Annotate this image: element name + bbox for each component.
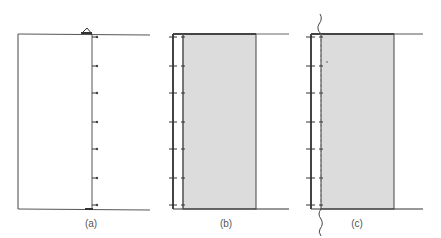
panel-a	[18, 28, 150, 210]
panel-c-label: (c)	[351, 218, 363, 229]
panel-a-region	[18, 34, 92, 209]
panel-c-shaded-region	[321, 34, 394, 209]
panel-a-bottom-thick	[85, 208, 93, 210]
panel-c-ticks	[306, 37, 323, 205]
panel-a-label: (a)	[85, 218, 97, 229]
panel-c	[306, 14, 423, 236]
panel-a-bottom-edge	[18, 209, 150, 210]
panel-b-label: (b)	[220, 218, 232, 229]
panel-b-shaded-region	[183, 34, 256, 209]
panel-b	[169, 34, 289, 209]
panel-a-ticks	[92, 36, 98, 206]
panel-c-marker-dot	[326, 61, 328, 63]
diagram-canvas	[0, 0, 441, 238]
